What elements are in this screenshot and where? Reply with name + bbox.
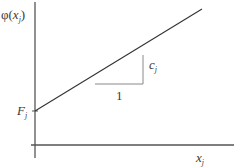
y-axis-label: φ(xj) [1,8,25,24]
diagram-canvas [0,0,234,168]
slope-run-label: 1 [116,89,123,102]
x-axis-label: xj [196,151,204,167]
slope-rise-label: cj [149,58,157,74]
intercept-label: Fj [17,104,27,120]
